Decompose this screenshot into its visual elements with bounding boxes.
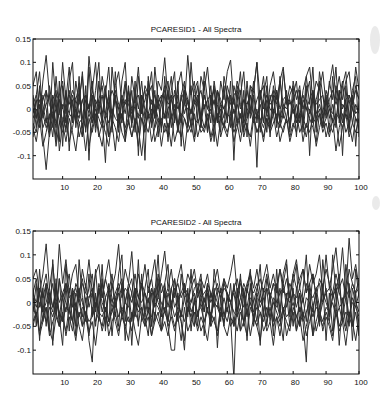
x-tick-label: 10 xyxy=(60,378,69,387)
x-tick-label: 20 xyxy=(93,183,102,192)
x-tick-label: 100 xyxy=(354,378,368,387)
y-tick-label: -0.1 xyxy=(17,152,31,161)
x-tick-label: 80 xyxy=(291,378,300,387)
x-tick-label: 20 xyxy=(93,378,102,387)
x-tick-label: 100 xyxy=(354,183,368,192)
y-tick-label: 0.15 xyxy=(15,227,31,236)
y-tick-label: 0 xyxy=(27,299,32,308)
plot-title: PCARESID2 - All Spectra xyxy=(151,218,242,227)
x-tick-label: 90 xyxy=(324,183,333,192)
plot-title: PCARESID1 - All Spectra xyxy=(151,25,242,34)
plot-1: PCARESID1 - All Spectra -0.1-0.0500.050.… xyxy=(13,25,368,192)
x-tick-label: 40 xyxy=(159,378,168,387)
x-tick-label: 30 xyxy=(126,378,135,387)
x-tick-labels: 102030405060708090100 xyxy=(60,378,368,387)
series-lines xyxy=(33,55,359,169)
y-tick-label: -0.05 xyxy=(13,128,32,137)
x-tick-label: 90 xyxy=(324,378,333,387)
y-tick-label: -0.1 xyxy=(17,346,31,355)
scan-artifact xyxy=(370,26,380,54)
x-tick-label: 60 xyxy=(225,378,234,387)
x-tick-labels: 102030405060708090100 xyxy=(60,183,368,192)
x-tick-label: 40 xyxy=(159,183,168,192)
y-tick-label: 0.1 xyxy=(20,58,32,67)
y-tick-labels: -0.1-0.0500.050.10.15 xyxy=(13,227,32,355)
y-tick-label: 0.05 xyxy=(15,82,31,91)
x-tick-label: 80 xyxy=(291,183,300,192)
y-tick-label: 0.15 xyxy=(15,35,31,44)
x-tick-label: 30 xyxy=(126,183,135,192)
x-tick-label: 50 xyxy=(192,183,201,192)
x-tick-label: 70 xyxy=(258,183,267,192)
figure: PCARESID1 - All Spectra -0.1-0.0500.050.… xyxy=(0,0,384,397)
y-tick-label: 0.1 xyxy=(20,251,32,260)
x-tick-label: 50 xyxy=(192,378,201,387)
x-tick-label: 10 xyxy=(60,183,69,192)
series-lines xyxy=(33,238,359,379)
y-tick-label: 0 xyxy=(27,105,32,114)
x-tick-label: 60 xyxy=(225,183,234,192)
y-tick-label: -0.05 xyxy=(13,322,32,331)
y-tick-labels: -0.1-0.0500.050.10.15 xyxy=(13,35,32,161)
plot-2: PCARESID2 - All Spectra -0.1-0.0500.050.… xyxy=(13,218,368,387)
y-tick-label: 0.05 xyxy=(15,275,31,284)
scan-artifact xyxy=(372,196,380,210)
x-tick-label: 70 xyxy=(258,378,267,387)
